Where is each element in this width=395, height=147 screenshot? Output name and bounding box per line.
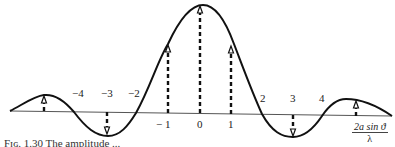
tick-label-0: 0 [197,119,203,130]
tick-label-minus-4: −4 [72,88,84,99]
diffraction-figure: −4 −3 −2 − 1 0 1 2 3 4 2a sin ϑ λ Fɪɢ. 1… [0,0,395,147]
x-axis-label-numerator: 2a sin ϑ [352,121,388,133]
tick-label-3: 3 [290,93,296,104]
x-axis-label: 2a sin ϑ λ [352,121,388,144]
arrow-head-up-icon [198,6,203,13]
tick-label-minus-2: −2 [128,88,140,99]
arrow-head-up-icon [354,101,359,108]
tick-label-minus-3: −3 [101,88,113,99]
arrow-head-down-icon [291,129,296,136]
tick-label-2: 2 [260,93,266,104]
tick-label-4: 4 [319,93,325,104]
figure-caption: Fɪɢ. 1.30 The amplitude ... [4,137,120,147]
tick-label-minus-1: − 1 [156,119,170,130]
tick-label-1: 1 [228,119,234,130]
arrow-head-down-icon [105,127,110,134]
arrow-head-up-icon [229,46,234,53]
x-axis-label-denominator: λ [352,133,388,144]
arrow-head-up-icon [42,96,47,103]
